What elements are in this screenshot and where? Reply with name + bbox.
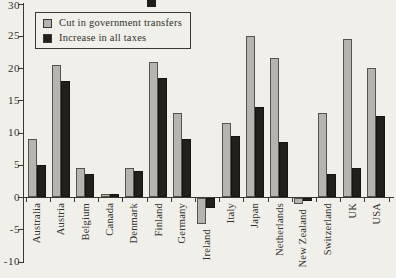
y-axis-tick-label: -5: [0, 224, 20, 235]
x-axis-tick: [171, 198, 172, 202]
x-axis-tick: [122, 198, 123, 202]
x-axis-tick: [243, 198, 244, 202]
bar-transfers-usa: [367, 68, 376, 197]
grouped-bar-chart: 302520151050-5-10AustraliaAustriaBelgium…: [0, 0, 396, 278]
x-category-label-text: Finland: [153, 203, 164, 237]
x-axis-tick: [340, 198, 341, 202]
y-axis-tick-label: 15: [0, 95, 20, 106]
y-axis-tick-label: -10: [0, 256, 20, 267]
legend-label: Cut in government transfers: [59, 17, 182, 29]
bar-transfers-germany: [173, 113, 182, 197]
legend-item-transfers: Cut in government transfers: [43, 17, 182, 29]
bar-taxes-denmark: [134, 171, 143, 197]
bar-taxes-ireland: [206, 198, 215, 208]
x-category-label-text: Switzerland: [322, 203, 333, 255]
x-category-label-text: Belgium: [80, 203, 91, 241]
scanned-figure-page: 302520151050-5-10AustraliaAustriaBelgium…: [0, 0, 396, 278]
x-axis-tick: [74, 198, 75, 202]
bar-transfers-austria: [52, 65, 61, 197]
x-category-label-text: Germany: [177, 203, 188, 243]
bar-transfers-australia: [28, 139, 37, 197]
scan-artifact-mark: [147, 0, 156, 7]
bar-taxes-austria: [61, 81, 70, 197]
x-axis-tick: [389, 198, 390, 202]
bar-taxes-belgium: [85, 174, 94, 197]
x-category-label-text: Denmark: [128, 203, 139, 243]
bar-taxes-japan: [255, 107, 264, 197]
bar-taxes-usa: [376, 116, 385, 197]
x-axis-tick: [147, 198, 148, 202]
bar-taxes-germany: [182, 139, 191, 197]
x-axis-tick: [364, 198, 365, 202]
legend-swatch-taxes: [43, 34, 52, 43]
bar-transfers-japan: [246, 36, 255, 197]
x-axis-tick: [50, 198, 51, 202]
x-category-label-text: UK: [346, 203, 357, 219]
y-axis-tick-label: 20: [0, 63, 20, 74]
x-axis-tick: [292, 198, 293, 202]
bar-taxes-australia: [37, 165, 46, 197]
bar-transfers-italy: [222, 123, 231, 197]
x-category-label-text: Australia: [32, 203, 43, 243]
y-axis-tick-label: 5: [0, 159, 20, 170]
y-axis-tick-label: 10: [0, 127, 20, 138]
bar-transfers-netherlands: [270, 58, 279, 197]
bar-transfers-new-zealand: [294, 198, 303, 204]
x-axis-tick: [316, 198, 317, 202]
y-axis-tick-label: 25: [0, 30, 20, 41]
bar-taxes-canada: [110, 194, 119, 197]
x-axis-tick: [26, 198, 27, 202]
chart-legend: Cut in government transfersIncrease in a…: [35, 12, 191, 49]
x-category-label-text: Netherlands: [274, 203, 285, 256]
x-axis-tick: [268, 198, 269, 202]
x-axis-tick: [195, 198, 196, 202]
x-category-label-text: Ireland: [201, 229, 212, 260]
x-category-label-text: Italy: [225, 203, 236, 223]
y-axis-tick-label: 30: [0, 0, 20, 11]
bar-taxes-netherlands: [279, 142, 288, 197]
bar-transfers-switzerland: [318, 113, 327, 197]
bar-transfers-denmark: [125, 168, 134, 197]
x-category-label-text: Canada: [104, 203, 115, 236]
legend-label: Increase in all taxes: [59, 32, 146, 44]
bar-transfers-uk: [343, 39, 352, 197]
bar-transfers-finland: [149, 62, 158, 197]
bar-transfers-belgium: [76, 168, 85, 197]
x-axis-tick: [219, 198, 220, 202]
bar-transfers-canada: [101, 194, 110, 197]
bar-taxes-italy: [231, 136, 240, 197]
bar-taxes-finland: [158, 78, 167, 197]
x-category-label-text: New Zealand: [298, 209, 309, 267]
legend-item-taxes: Increase in all taxes: [43, 32, 182, 44]
x-axis-tick: [98, 198, 99, 202]
bar-taxes-new-zealand: [303, 198, 312, 201]
y-axis-tick-label: 0: [0, 192, 20, 203]
x-category-label-text: USA: [370, 203, 381, 225]
bar-taxes-switzerland: [327, 174, 336, 197]
x-category-label-text: Austria: [56, 203, 67, 235]
bar-transfers-ireland: [197, 198, 206, 224]
bar-taxes-uk: [352, 168, 361, 197]
legend-swatch-transfers: [43, 19, 52, 28]
x-category-label-text: Japan: [249, 203, 260, 228]
